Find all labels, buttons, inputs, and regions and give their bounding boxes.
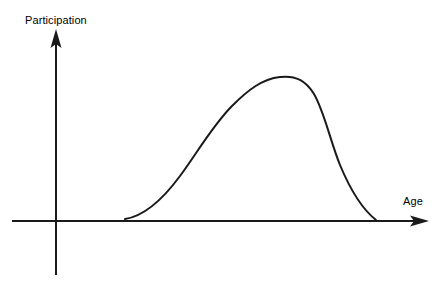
chart-figure: Participation Age xyxy=(0,0,442,285)
y-axis-label: Participation xyxy=(25,14,87,27)
chart-plot-area xyxy=(0,0,442,285)
x-axis-label: Age xyxy=(403,195,423,208)
participation-curve xyxy=(125,77,376,220)
